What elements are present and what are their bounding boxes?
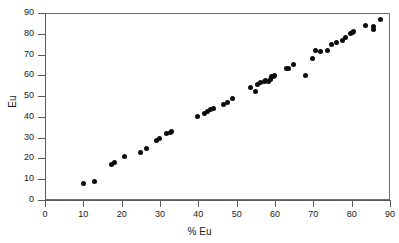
x-tick-label: 90 [378,210,399,219]
y-axis-line [45,13,46,201]
x-tick-label: 20 [110,210,134,219]
data-point [138,150,143,155]
x-tick-label: 70 [301,210,325,219]
x-tick-mark [313,200,314,207]
x-tick-label: 0 [33,210,57,219]
y-tick-mark [38,138,45,139]
x-tick-label: 50 [225,210,249,219]
y-tick-mark [38,34,45,35]
y-tick-label: 20 [0,153,34,162]
y-tick-label: 70 [0,50,34,59]
data-point [286,66,291,71]
y-tick-mark [38,117,45,118]
y-tick-label: 10 [0,174,34,183]
data-point [112,160,117,165]
x-tick-mark [390,200,391,207]
y-tick-mark [38,179,45,180]
y-tick-mark [38,55,45,56]
y-tick-mark [38,13,45,14]
x-tick-label: 40 [186,210,210,219]
x-tick-mark [45,200,46,207]
x-tick-mark [237,200,238,207]
y-tick-label: 0 [0,195,34,204]
y-tick-label: 90 [0,8,34,17]
y-tick-label: 80 [0,29,34,38]
y-tick-mark [38,200,45,201]
x-tick-label: 10 [71,210,95,219]
data-point [303,73,308,78]
data-point [253,89,258,94]
y-tick-mark [38,96,45,97]
x-tick-mark [198,200,199,207]
x-tick-label: 80 [340,210,364,219]
y-axis-title: Eu [7,82,18,122]
data-point [318,49,323,54]
data-point [122,154,127,159]
data-point [211,106,216,111]
data-point [225,100,230,105]
y-tick-mark [38,158,45,159]
data-point [272,73,277,78]
scatter-plot-figure: 0102030405060708090 0102030405060708090 … [0,0,399,243]
data-point [343,35,348,40]
x-tick-mark [275,200,276,207]
x-tick-mark [122,200,123,207]
data-point [169,129,174,134]
data-point [325,48,330,53]
y-tick-mark [38,75,45,76]
x-axis-line [45,200,391,201]
x-axis-title: % Eu [0,226,399,237]
x-tick-label: 30 [148,210,172,219]
x-tick-mark [160,200,161,207]
y-tick-label: 60 [0,70,34,79]
x-tick-mark [352,200,353,207]
data-point [81,181,86,186]
x-tick-mark [83,200,84,207]
x-tick-label: 60 [263,210,287,219]
y-tick-label: 30 [0,133,34,142]
